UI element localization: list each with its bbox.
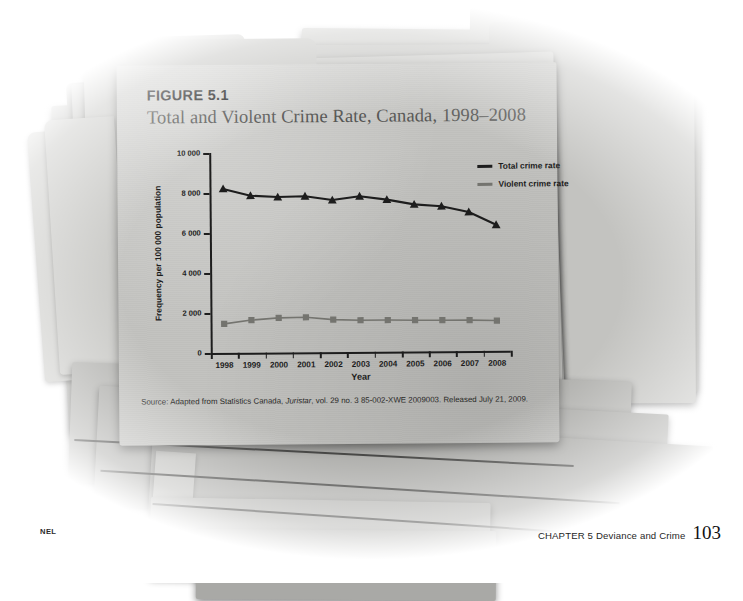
- x-tick-label: 2008: [488, 359, 506, 368]
- data-point-marker: [357, 317, 363, 323]
- data-point-marker: [439, 317, 445, 323]
- page-footer: CHAPTER 5 Deviance and Crime 103: [538, 522, 721, 544]
- figure-title: Total and Violent Crime Rate, Canada, 19…: [147, 105, 526, 129]
- x-tick-label: 2001: [297, 360, 315, 369]
- chapter-label: CHAPTER 5 Deviance and Crime: [538, 530, 686, 541]
- series-violent-crime-rate: [221, 313, 500, 327]
- data-point-marker: [248, 317, 254, 323]
- y-axis-title: Frequency per 100 000 population: [151, 153, 165, 353]
- folder-front-figure: FIGURE 5.1 Total and Violent Crime Rate,…: [117, 62, 560, 445]
- chart-plot-area: Frequency per 100 000 population 02 0004…: [147, 143, 529, 376]
- x-tick: [483, 351, 485, 357]
- x-tick-label: 2003: [352, 360, 370, 369]
- y-tick-label: 6 000: [182, 229, 201, 238]
- x-tick-label: 2000: [270, 360, 288, 369]
- legend-swatch: [477, 164, 492, 167]
- folder-bottom-5: [196, 529, 496, 601]
- legend-swatch: [477, 182, 492, 185]
- x-tick-label: 2005: [406, 359, 424, 368]
- chart-axes: 02 0004 0006 0008 00010 000 199819992000…: [209, 151, 511, 353]
- y-tick-label: 0: [198, 349, 202, 358]
- data-point-marker: [221, 321, 227, 327]
- x-tick-label: 2006: [434, 359, 452, 368]
- x-tick: [238, 353, 240, 359]
- data-point-marker: [330, 317, 336, 323]
- figure-block: FIGURE 5.1 Total and Violent Crime Rate,…: [117, 62, 560, 445]
- data-point-marker: [219, 184, 228, 192]
- x-tick: [456, 351, 458, 357]
- x-tick: [293, 352, 295, 358]
- x-tick: [429, 351, 431, 357]
- data-point-marker: [385, 317, 391, 323]
- y-tick-label: 10 000: [177, 149, 200, 158]
- publisher-mark: NEL: [40, 527, 56, 536]
- x-tick: [402, 351, 404, 357]
- figure-number: FIGURE 5.1: [147, 87, 229, 104]
- legend-item: Total crime rate: [477, 158, 568, 173]
- y-tick-label: 8 000: [181, 189, 200, 198]
- page-number: 103: [693, 522, 722, 544]
- x-tick-label: 2007: [461, 359, 479, 368]
- series-total-crime-rate: [219, 182, 501, 230]
- chart-legend: Total crime rateViolent crime rate: [477, 158, 568, 195]
- x-tick: [511, 351, 513, 357]
- y-tick-label: 2 000: [182, 309, 201, 318]
- legend-label: Violent crime rate: [498, 178, 568, 189]
- y-tick-label: 4 000: [182, 269, 201, 278]
- data-point-marker: [494, 317, 500, 323]
- x-tick: [347, 352, 349, 358]
- chart-series-layer: [209, 151, 511, 353]
- x-tick-label: 2002: [324, 360, 342, 369]
- data-point-marker: [303, 314, 309, 320]
- figure-source-note: Source: Adapted from Statistics Canada, …: [141, 394, 541, 407]
- x-tick: [320, 352, 322, 358]
- x-tick: [265, 353, 267, 359]
- source-journal-title: Juristar: [285, 396, 311, 405]
- x-tick-label: 2004: [379, 360, 397, 369]
- data-point-marker: [276, 315, 282, 321]
- legend-label: Total crime rate: [498, 160, 560, 170]
- x-tick-label: 1998: [215, 361, 233, 370]
- legend-item: Violent crime rate: [477, 176, 568, 191]
- data-point-marker: [466, 317, 472, 323]
- x-tick: [374, 352, 376, 358]
- data-point-marker: [412, 317, 418, 323]
- x-tick-label: 1999: [243, 361, 261, 370]
- x-axis-title: Year: [211, 371, 511, 383]
- x-tick: [211, 353, 213, 359]
